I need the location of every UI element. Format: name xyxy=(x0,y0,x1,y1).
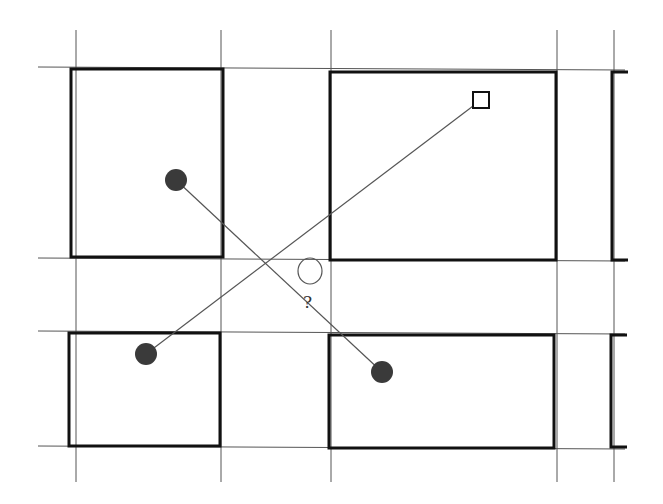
question-intersection-marker xyxy=(298,258,322,284)
block-bottom-right-partial xyxy=(611,335,627,447)
square-top-right-icon xyxy=(473,92,489,108)
block-top-middle xyxy=(330,72,556,260)
question-mark-label: ? xyxy=(303,292,312,312)
building-blocks xyxy=(69,69,628,448)
dot-top-left-icon xyxy=(165,169,187,191)
dot-bottom-left-icon xyxy=(135,343,157,365)
location-points xyxy=(135,92,489,383)
block-bottom-middle xyxy=(329,335,554,448)
target-circle xyxy=(298,258,322,284)
connector-line-0 xyxy=(176,180,382,372)
dot-bottom-middle-icon xyxy=(371,361,393,383)
connector-lines xyxy=(146,100,481,372)
street-grid-diagram xyxy=(0,0,663,504)
connector-line-1 xyxy=(146,100,481,354)
block-top-left xyxy=(71,69,223,257)
